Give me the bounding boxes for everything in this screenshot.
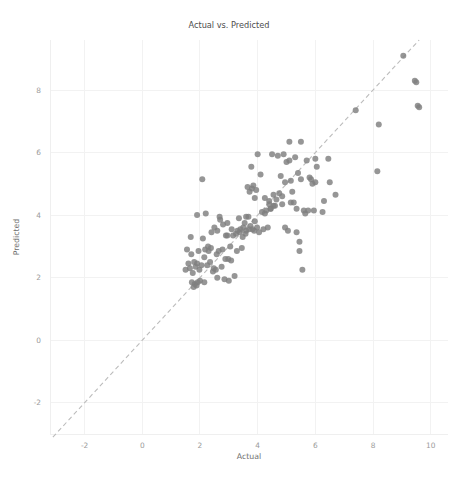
data-point — [314, 164, 320, 170]
data-point — [209, 229, 215, 235]
data-point — [200, 236, 206, 242]
data-point — [295, 170, 301, 176]
data-point — [296, 248, 302, 254]
data-point — [353, 107, 359, 113]
data-point — [298, 176, 304, 182]
y-tick-label: 0 — [36, 336, 41, 345]
data-point — [185, 261, 191, 267]
x-tick-label: 8 — [371, 441, 376, 450]
data-point — [188, 251, 194, 257]
data-point — [248, 164, 254, 170]
data-point — [219, 264, 225, 270]
data-point — [224, 232, 230, 238]
data-point — [199, 176, 205, 182]
data-point — [416, 104, 422, 110]
data-point — [299, 267, 305, 273]
x-tick-label: 4 — [255, 441, 260, 450]
x-tick-label: -2 — [81, 441, 88, 450]
data-point — [301, 207, 307, 213]
y-axis-title: Predicted — [12, 219, 21, 256]
data-point — [278, 173, 284, 179]
data-point — [279, 193, 285, 199]
data-point — [282, 179, 288, 185]
data-point — [183, 267, 189, 273]
data-point — [266, 201, 272, 207]
data-point — [255, 151, 261, 157]
data-point — [214, 275, 220, 281]
data-point — [201, 279, 207, 285]
data-point — [191, 259, 197, 265]
data-point — [201, 254, 207, 260]
data-point — [252, 218, 258, 224]
data-point — [286, 139, 292, 145]
data-point — [327, 179, 333, 185]
data-point — [288, 178, 294, 184]
data-point — [203, 211, 209, 217]
data-point — [234, 248, 240, 254]
data-point — [189, 279, 195, 285]
y-tick-label: -2 — [34, 398, 41, 407]
data-point — [311, 207, 317, 213]
data-point — [333, 192, 339, 198]
data-point — [230, 232, 236, 238]
data-point — [229, 226, 235, 232]
data-point — [214, 251, 220, 257]
data-point — [227, 243, 233, 249]
data-point — [184, 247, 190, 253]
x-tick-label: 6 — [313, 441, 318, 450]
data-point — [289, 189, 295, 195]
data-point — [288, 200, 294, 206]
data-point — [252, 195, 258, 201]
scatter-plot-canvas: -20246810 -202468 Actual vs. Predicted A… — [0, 0, 458, 478]
data-point — [262, 195, 268, 201]
y-tick-label: 8 — [36, 86, 41, 95]
data-point — [304, 157, 310, 163]
data-point — [312, 156, 318, 162]
data-point — [243, 214, 249, 220]
data-point — [374, 168, 380, 174]
data-point — [376, 121, 382, 127]
data-point — [236, 215, 242, 221]
data-point — [282, 225, 288, 231]
data-point — [232, 273, 238, 279]
data-point — [258, 171, 264, 177]
data-point — [298, 139, 304, 145]
data-point — [292, 154, 298, 160]
y-tick-label: 2 — [36, 273, 41, 282]
data-point — [413, 79, 419, 85]
data-point — [294, 206, 300, 212]
data-point — [296, 239, 302, 245]
data-point — [202, 247, 208, 253]
data-point — [262, 211, 268, 217]
data-point — [320, 209, 326, 215]
data-point — [269, 151, 275, 157]
data-point — [286, 157, 292, 163]
y-tick-label: 6 — [36, 148, 41, 157]
data-point — [400, 53, 406, 59]
data-point — [307, 175, 313, 181]
data-point — [217, 214, 223, 220]
data-point — [204, 262, 210, 268]
data-point — [194, 212, 200, 218]
data-point — [188, 234, 194, 240]
data-point — [325, 156, 331, 162]
x-axis-title: Actual — [237, 452, 261, 461]
data-point — [221, 276, 227, 282]
x-tick-label: 0 — [140, 441, 145, 450]
data-point — [245, 184, 251, 190]
data-point — [275, 153, 281, 159]
data-point — [271, 192, 277, 198]
y-tick-label: 4 — [36, 211, 41, 220]
data-point — [196, 248, 202, 254]
x-tick-label: 10 — [426, 441, 436, 450]
data-point — [279, 201, 285, 207]
data-point — [281, 151, 287, 157]
data-point — [294, 229, 300, 235]
x-tick-label: 2 — [198, 441, 203, 450]
data-point — [210, 268, 216, 274]
data-point — [222, 256, 228, 262]
chart-figure: -20246810 -202468 Actual vs. Predicted A… — [0, 0, 458, 478]
chart-title: Actual vs. Predicted — [188, 20, 269, 30]
data-point — [321, 198, 327, 204]
